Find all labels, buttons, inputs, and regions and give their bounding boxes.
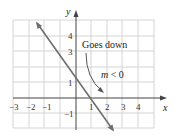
tick-x-neg1: −1 [42,102,52,112]
tick-y-1: 1 [68,78,73,88]
x-axis-label: x [162,102,168,113]
annotation-goes-down: Goes down [82,39,127,50]
annotation-curved-arrow [86,53,102,91]
tick-x-neg3: −3 [9,102,19,112]
tick-x-3: 3 [121,102,126,112]
tick-x-2: 2 [105,102,110,112]
tick-y-neg1: −1 [64,109,74,119]
graph: y x −3 −2 −1 1 2 3 4 4 3 1 −1 Goes down … [0,0,180,138]
tick-x-1: 1 [89,102,94,112]
tick-y-3: 3 [68,47,73,57]
tick-y-4: 4 [68,31,73,41]
x-axis-arrow-icon [160,96,167,101]
tick-x-neg2: −2 [26,102,36,112]
y-axis-label: y [65,6,71,17]
y-axis-arrow-icon [74,10,79,17]
annotation-slope: m < 0 [101,69,124,80]
line-arrow-bottom-icon [108,125,115,132]
tick-x-4: 4 [136,102,141,112]
